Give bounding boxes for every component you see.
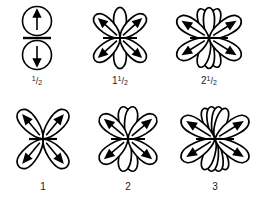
label-numerator: 1: [207, 75, 211, 82]
cell-label-three: 3: [170, 182, 260, 192]
label-denominator: 2: [124, 79, 128, 86]
label-denominator: 2: [213, 79, 217, 86]
diagram-cell-two: 2: [88, 102, 168, 198]
rosette-graphic-two-half: [163, 4, 255, 72]
cell-label-one: 1: [6, 182, 80, 192]
figure-root: 1/2: [0, 0, 262, 207]
label-whole: 2: [125, 181, 131, 192]
label-numerator: 1: [118, 75, 122, 82]
label-numerator: 1: [32, 75, 36, 82]
diagram-cell-one-half: 11/2: [80, 4, 160, 94]
rosette-graphic-two: [88, 102, 168, 176]
diagram-cell-one: 1: [6, 102, 80, 198]
diagram-cell-half: 1/2: [6, 4, 68, 94]
rosette-graphic-one-half: [80, 4, 160, 72]
cell-label-two-half: 21/2: [163, 76, 255, 86]
rosette-graphic-one: [6, 102, 80, 176]
cell-label-half: 1/2: [6, 76, 68, 86]
label-whole: 1: [40, 181, 46, 192]
arrow-down-icon: [34, 46, 41, 66]
label-whole: 3: [212, 181, 218, 192]
label-denominator: 2: [38, 79, 42, 86]
diagram-cell-three: 3: [170, 102, 260, 198]
rosette-graphic-three: [170, 102, 260, 176]
cell-label-two: 2: [88, 182, 168, 192]
spin-circles-graphic: [6, 4, 68, 72]
diagram-cell-two-half: 21/2: [163, 4, 255, 94]
cell-label-one-half: 11/2: [80, 76, 160, 86]
arrow-up-icon: [34, 10, 41, 30]
